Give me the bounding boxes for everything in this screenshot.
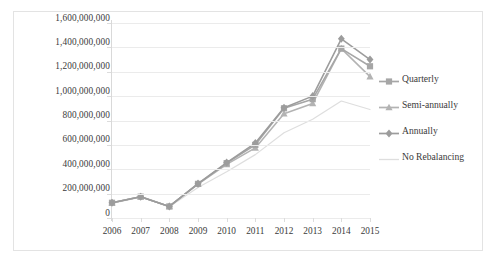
series-semi-annually xyxy=(108,45,373,209)
y-axis-tick-label: 1,000,000,000 xyxy=(14,86,110,96)
x-axis-tick-label: 2013 xyxy=(298,225,328,237)
x-axis-tick xyxy=(227,218,228,222)
plot-area xyxy=(112,23,370,218)
gridline xyxy=(112,23,370,24)
y-axis-tick xyxy=(107,23,111,24)
y-axis-tick-label: 0 xyxy=(14,208,110,218)
x-axis-tick xyxy=(255,218,256,222)
y-axis-tick xyxy=(107,169,111,170)
x-axis-tick-label: 2008 xyxy=(154,225,184,237)
series-line xyxy=(112,39,370,207)
x-axis-tick-label: 2012 xyxy=(269,225,299,237)
legend-item-label: Annually xyxy=(402,125,438,137)
y-axis-tick-label: 1,600,000,000 xyxy=(14,13,110,23)
triangle-marker xyxy=(378,100,400,113)
gridline xyxy=(112,121,370,122)
legend-item-label: Semi-annually xyxy=(402,99,458,111)
y-axis-tick-label: 1,400,000,000 xyxy=(14,37,110,47)
y-axis-tick xyxy=(107,72,111,73)
y-axis-tick-label: 400,000,000 xyxy=(14,159,110,169)
legend-item-label: Quarterly xyxy=(402,73,439,85)
y-axis-tick xyxy=(107,194,111,195)
legend-line-icon xyxy=(378,152,400,165)
data-point-marker xyxy=(338,35,345,43)
x-axis-tick xyxy=(341,218,342,222)
x-axis-tick xyxy=(141,218,142,222)
gridline xyxy=(112,72,370,73)
x-axis-tick-label: 2011 xyxy=(240,225,270,237)
y-axis-tick-label: 800,000,000 xyxy=(14,110,110,120)
diamond-marker xyxy=(378,126,400,139)
x-axis-tick-label: 2010 xyxy=(212,225,242,237)
x-axis-tick xyxy=(370,218,371,222)
x-axis-labels: 2006200720082009201020112012201320142015 xyxy=(100,225,390,243)
gridline xyxy=(112,145,370,146)
x-axis-tick xyxy=(284,218,285,222)
data-point-marker xyxy=(386,78,392,84)
data-point-marker xyxy=(386,129,393,137)
x-axis-tick-label: 2006 xyxy=(97,225,127,237)
x-axis-tick-label: 2009 xyxy=(183,225,213,237)
y-axis-tick xyxy=(107,121,111,122)
x-axis-tick-label: 2007 xyxy=(126,225,156,237)
y-axis-labels: 1,600,000,0001,400,000,0001,200,000,0001… xyxy=(14,12,110,228)
square-marker xyxy=(378,74,400,87)
x-axis-tick xyxy=(198,218,199,222)
chart-figure: 1,600,000,0001,400,000,0001,200,000,0001… xyxy=(0,0,501,263)
series-quarterly xyxy=(109,45,373,209)
chart-legend: QuarterlySemi-annuallyAnnuallyNo Rebalan… xyxy=(378,74,482,179)
y-axis-tick-label: 1,200,000,000 xyxy=(14,61,110,71)
y-axis-tick xyxy=(107,218,111,219)
x-axis-tick xyxy=(112,218,113,222)
y-axis-tick-label: 200,000,000 xyxy=(14,183,110,193)
x-axis-tick-label: 2015 xyxy=(355,225,385,237)
gridline xyxy=(112,218,370,219)
gridline xyxy=(112,194,370,195)
legend-item-label: No Rebalancing xyxy=(402,151,474,164)
x-axis-tick-label: 2014 xyxy=(326,225,356,237)
gridline xyxy=(112,47,370,48)
x-axis-tick xyxy=(313,218,314,222)
x-axis-tick xyxy=(169,218,170,222)
y-axis-tick xyxy=(107,145,111,146)
gridline xyxy=(112,169,370,170)
data-point-marker xyxy=(367,63,373,69)
y-axis-tick xyxy=(107,96,111,97)
y-axis-tick xyxy=(107,47,111,48)
y-axis-tick-label: 600,000,000 xyxy=(14,134,110,144)
gridline xyxy=(112,96,370,97)
